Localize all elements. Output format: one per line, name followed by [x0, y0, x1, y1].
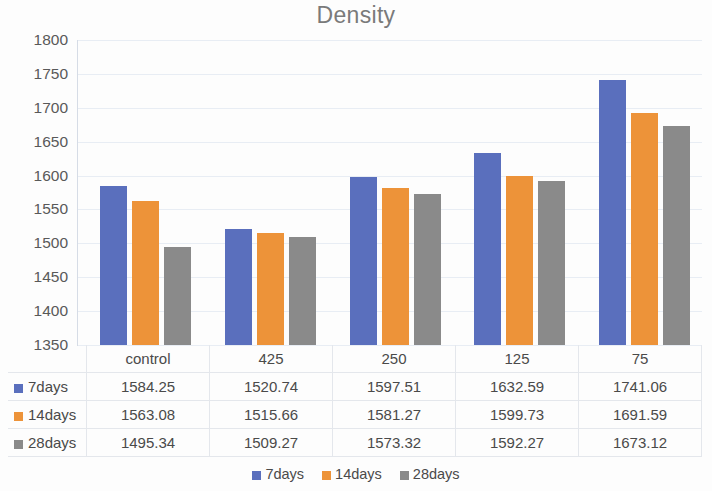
- series-color-swatch-icon: [14, 440, 23, 449]
- bar-group: [78, 40, 203, 345]
- legend-item-label: 28days: [413, 466, 460, 482]
- bar-group: [452, 40, 577, 345]
- bar[interactable]: [350, 177, 377, 345]
- data-table-cell: 1632.59: [456, 373, 579, 401]
- bar-group: [328, 40, 453, 345]
- legend-item[interactable]: 28days: [400, 466, 460, 482]
- table-row: 7days1584.251520.741597.511632.591741.06: [8, 373, 702, 401]
- legend-item-label: 14days: [335, 466, 382, 482]
- data-table-cell: 1581.27: [333, 401, 456, 429]
- data-table-cell: 1520.74: [210, 373, 333, 401]
- data-table-cell: 1515.66: [210, 401, 333, 429]
- data-table-cell: 1673.12: [579, 429, 702, 457]
- data-table-column-header: 425: [210, 345, 333, 373]
- y-axis-tick-label: 1650: [12, 133, 68, 151]
- y-axis-tick-label: 1600: [12, 167, 68, 185]
- legend-color-swatch-icon: [322, 471, 331, 480]
- legend-color-swatch-icon: [252, 471, 261, 480]
- bar-group: [203, 40, 328, 345]
- data-table-body: 7days1584.251520.741597.511632.591741.06…: [8, 373, 702, 457]
- data-table-row-label: 7days: [8, 373, 87, 401]
- data-table-column-header: 250: [333, 345, 456, 373]
- data-table-cell: 1599.73: [456, 401, 579, 429]
- data-table-column-header: control: [87, 345, 210, 373]
- bar[interactable]: [132, 201, 159, 345]
- legend-item[interactable]: 7days: [252, 466, 304, 482]
- bar[interactable]: [382, 188, 409, 345]
- table-row: 28days1495.341509.271573.321592.271673.1…: [8, 429, 702, 457]
- bar[interactable]: [506, 176, 533, 345]
- bar[interactable]: [257, 233, 284, 345]
- y-axis-tick-label: 1500: [12, 234, 68, 252]
- legend-item[interactable]: 14days: [322, 466, 382, 482]
- data-table-header-row: control42525012575: [8, 345, 702, 373]
- plot-area: [78, 40, 702, 345]
- chart-data-table: control42525012575 7days1584.251520.7415…: [8, 345, 702, 457]
- bar[interactable]: [599, 80, 626, 345]
- bar[interactable]: [474, 153, 501, 345]
- y-axis-tick-labels: 1800175017001650160015501500145014001350: [10, 40, 68, 345]
- chart-title: Density: [0, 2, 712, 29]
- bar[interactable]: [100, 186, 127, 345]
- series-color-swatch-icon: [14, 384, 23, 393]
- data-table-head: control42525012575: [8, 345, 702, 373]
- y-axis-tick-label: 1700: [12, 99, 68, 117]
- data-table-row-label: 28days: [8, 429, 87, 457]
- bar[interactable]: [663, 126, 690, 345]
- data-table-row-label: 14days: [8, 401, 87, 429]
- y-axis-tick-label: 1400: [12, 302, 68, 320]
- bar[interactable]: [164, 247, 191, 346]
- bar[interactable]: [414, 194, 441, 345]
- legend-item-label: 7days: [265, 466, 304, 482]
- bar[interactable]: [289, 237, 316, 345]
- data-table-cell: 1584.25: [87, 373, 210, 401]
- data-table-column-header: 75: [579, 345, 702, 373]
- y-axis-tick-label: 1750: [12, 65, 68, 83]
- bar-group: [577, 40, 702, 345]
- y-axis-tick-label: 1450: [12, 268, 68, 286]
- y-axis-tick-label: 1800: [12, 31, 68, 49]
- data-table-cell: 1495.34: [87, 429, 210, 457]
- bar[interactable]: [538, 181, 565, 345]
- data-table-cell: 1573.32: [333, 429, 456, 457]
- chart-container: Density 18001750170016501600155015001450…: [0, 0, 712, 491]
- data-table-corner: [8, 345, 87, 373]
- bar[interactable]: [225, 229, 252, 345]
- data-table-cell: 1509.27: [210, 429, 333, 457]
- y-axis-tick-label: 1550: [12, 200, 68, 218]
- data-table-cell: 1597.51: [333, 373, 456, 401]
- data-table-cell: 1741.06: [579, 373, 702, 401]
- data-table-cell: 1563.08: [87, 401, 210, 429]
- bar[interactable]: [631, 113, 658, 345]
- legend-color-swatch-icon: [400, 471, 409, 480]
- table-row: 14days1563.081515.661581.271599.731691.5…: [8, 401, 702, 429]
- series-color-swatch-icon: [14, 412, 23, 421]
- data-table-column-header: 125: [456, 345, 579, 373]
- data-table-cell: 1592.27: [456, 429, 579, 457]
- data-table-cell: 1691.59: [579, 401, 702, 429]
- chart-legend: 7days14days28days: [0, 466, 712, 482]
